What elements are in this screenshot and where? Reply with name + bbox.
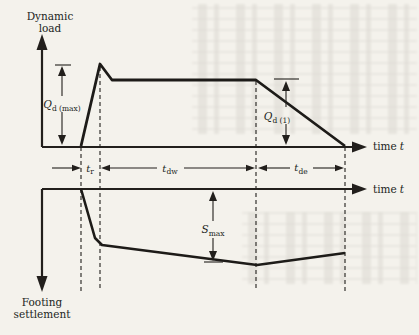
settlement-axis-title-line2: settlement bbox=[14, 308, 72, 320]
dynamic-load-curve bbox=[81, 64, 345, 146]
qdmax-down-arrowhead bbox=[58, 135, 66, 145]
settlement-axis-down-arrowhead bbox=[37, 276, 48, 292]
time-axis-bottom-label: timet bbox=[373, 183, 405, 195]
load-axis-title-line2: load bbox=[39, 22, 62, 34]
tr-right-arrowhead bbox=[72, 165, 81, 171]
smax-dimension: Smax bbox=[201, 191, 225, 262]
settlement-axis-title-line1: Footing bbox=[22, 296, 63, 308]
time-axis-top-label: timet bbox=[373, 140, 405, 152]
scanned-book-figure: Dynamic load timet Qd (max) Qd (1) bbox=[0, 0, 419, 335]
tde-label: tde bbox=[294, 162, 308, 176]
tr-label: tr bbox=[86, 163, 94, 177]
tdw-left-arrowhead bbox=[101, 165, 110, 171]
tde-right-arrowhead bbox=[335, 165, 344, 171]
time-interval-dimensions: tr tdw tde bbox=[52, 162, 344, 176]
qd1-down-arrowhead bbox=[282, 135, 290, 145]
tdw-right-arrowhead bbox=[246, 165, 255, 171]
qd1-label: Qd (1) bbox=[264, 110, 290, 125]
figure-canvas: Dynamic load timet Qd (max) Qd (1) bbox=[0, 0, 419, 335]
time-axis-bottom-arrowhead bbox=[352, 184, 367, 195]
tdw-label: tdw bbox=[162, 163, 178, 177]
time-axis-top-arrowhead bbox=[352, 142, 367, 153]
load-axis-up-arrowhead bbox=[37, 34, 48, 50]
tde-left-arrowhead bbox=[258, 165, 267, 171]
qdmax-dimension: Qd (max) bbox=[43, 65, 81, 145]
load-axis-title-line1: Dynamic bbox=[27, 10, 74, 22]
smax-label: Smax bbox=[201, 223, 225, 238]
qdmax-label: Qd (max) bbox=[43, 98, 81, 113]
